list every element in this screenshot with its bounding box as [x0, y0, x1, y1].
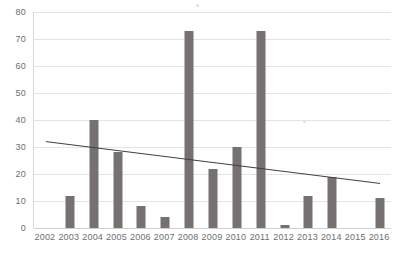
y-axis-tick-50: 50 — [16, 88, 26, 98]
x-axis-tick-2010: 2010 — [225, 232, 246, 242]
y-axis-tick-labels: 80706050403020100 — [0, 0, 30, 256]
x-axis-tick-2003: 2003 — [58, 232, 79, 242]
x-axis-tick-2006: 2006 — [130, 232, 151, 242]
y-axis-tick-0: 0 — [21, 223, 26, 233]
x-axis-tick-2013: 2013 — [297, 232, 318, 242]
y-axis-tick-60: 60 — [16, 61, 26, 71]
x-axis-tick-2004: 2004 — [82, 232, 103, 242]
x-axis-tick-2005: 2005 — [106, 232, 127, 242]
x-axis-tick-2011: 2011 — [250, 232, 270, 242]
x-axis-tick-2015: 2015 — [345, 232, 366, 242]
y-axis-tick-20: 20 — [16, 169, 26, 179]
x-axis-tick-labels: 2002200320042005200620072008200920102011… — [33, 232, 391, 250]
x-axis-tick-2007: 2007 — [154, 232, 175, 242]
y-axis-tick-30: 30 — [16, 142, 26, 152]
x-axis-tick-2008: 2008 — [178, 232, 199, 242]
scan-artifact-speck — [196, 4, 199, 7]
trendline — [34, 12, 391, 228]
x-axis-tick-2014: 2014 — [321, 232, 342, 242]
y-axis-tick-80: 80 — [16, 7, 26, 17]
plot-area — [33, 12, 391, 228]
y-axis-tick-40: 40 — [16, 115, 26, 125]
y-axis-tick-70: 70 — [16, 34, 26, 44]
x-axis-line — [34, 228, 391, 229]
x-axis-tick-2012: 2012 — [273, 232, 294, 242]
x-axis-tick-2016: 2016 — [369, 232, 390, 242]
x-axis-tick-2002: 2002 — [35, 232, 56, 242]
bar-chart: 80706050403020100 2002200320042005200620… — [0, 0, 398, 256]
x-axis-tick-2009: 2009 — [202, 232, 223, 242]
y-axis-tick-10: 10 — [16, 196, 26, 206]
